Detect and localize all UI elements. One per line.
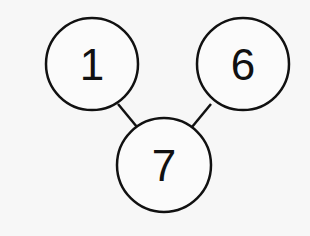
edge-6-to-7 [192, 104, 211, 127]
node-1: 1 [46, 18, 138, 110]
edge-1-to-7 [118, 104, 137, 127]
tree-diagram: 1 6 7 [0, 0, 310, 236]
node-6: 6 [197, 18, 289, 110]
node-1-label: 1 [80, 40, 104, 89]
node-7-label: 7 [152, 141, 176, 190]
node-7: 7 [117, 118, 211, 212]
node-6-label: 6 [231, 40, 255, 89]
